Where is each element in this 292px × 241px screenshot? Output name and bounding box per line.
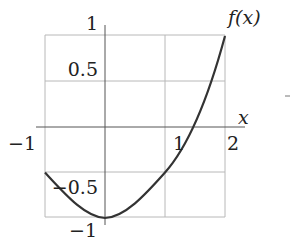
y-tick-label-neg0.5: −0.5: [52, 176, 98, 198]
x-tick-label-1: 1: [173, 132, 185, 154]
x-tick-label-2: 2: [227, 132, 239, 154]
y-tick-label-1: 1: [86, 12, 98, 34]
y-tick-label-0.5: 0.5: [68, 58, 98, 80]
x-tick-label-neg1: −1: [8, 132, 36, 154]
function-plot: 1 0.5 −0.5 −1 −1 1 2 x f(x): [0, 0, 292, 241]
y-tick-label-neg1: −1: [69, 219, 97, 241]
x-axis-label: x: [238, 106, 249, 128]
y-axis-label: f(x): [226, 6, 261, 28]
